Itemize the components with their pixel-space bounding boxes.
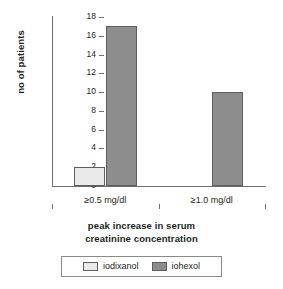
x-axis-category-label: ≥1.0 mg/dl <box>159 194 266 206</box>
y-axis-tick: 8 <box>99 111 104 112</box>
y-axis-tick: 16 <box>99 36 104 37</box>
x-axis-line <box>52 186 266 187</box>
y-axis-tick: 4 <box>99 148 104 149</box>
y-axis-tick: 6 <box>99 130 104 131</box>
y-axis-tick-label: 12 <box>87 67 96 78</box>
legend-item-iodixanol: iodixanol <box>83 261 139 272</box>
legend-label-iohexol: iohexol <box>172 261 201 272</box>
x-axis-title-line-1: peak increase in serum <box>0 219 283 232</box>
legend-label-iodixanol: iodixanol <box>103 261 139 272</box>
y-axis-tick-label: 16 <box>87 30 96 41</box>
plot-area: 024681012141618 <box>52 17 265 186</box>
y-axis-tick: 18 <box>99 17 104 18</box>
y-axis-tick: 10 <box>99 92 104 93</box>
y-axis-tick-label: 4 <box>91 142 96 153</box>
legend-swatch-iodixanol <box>83 262 98 271</box>
bar-chart-figure: no of patients 024681012141618 ≥0.5 mg/d… <box>0 0 283 289</box>
y-axis-tick: 0 <box>99 186 104 187</box>
chart-legend: iodixanoliohexol <box>61 256 222 277</box>
y-axis-tick-label: 8 <box>91 105 96 116</box>
y-axis-tick: 14 <box>99 55 104 56</box>
legend-item-iohexol: iohexol <box>152 261 201 272</box>
x-axis-title: peak increase in serum creatinine concen… <box>0 219 283 245</box>
bar-iohexol-0 <box>106 26 137 186</box>
y-axis-tick-label: 10 <box>87 86 96 97</box>
legend-swatch-iohexol <box>152 262 167 271</box>
bar-iodixanol-0 <box>74 167 105 186</box>
y-axis-title: no of patients <box>13 0 29 127</box>
y-axis-tick-label: 14 <box>87 49 96 60</box>
y-axis-tick-label: 6 <box>91 124 96 135</box>
x-axis-tick <box>265 204 266 209</box>
y-axis-tick: 12 <box>99 73 104 74</box>
bar-iohexol-1 <box>212 92 243 186</box>
x-axis-title-line-2: creatinine concentration <box>0 232 283 245</box>
y-axis-tick-label: 18 <box>87 11 96 22</box>
x-axis-category-label: ≥0.5 mg/dl <box>52 194 159 206</box>
